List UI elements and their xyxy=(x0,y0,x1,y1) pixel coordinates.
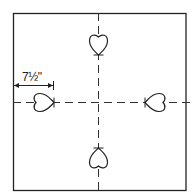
dimension-label: 7½" xyxy=(22,71,41,83)
heart-icon-right xyxy=(145,94,165,112)
diagram-canvas xyxy=(0,0,196,194)
heart-icon-top xyxy=(90,35,108,55)
heart-icon-bottom xyxy=(90,148,108,168)
heart-icon-left xyxy=(34,94,54,112)
